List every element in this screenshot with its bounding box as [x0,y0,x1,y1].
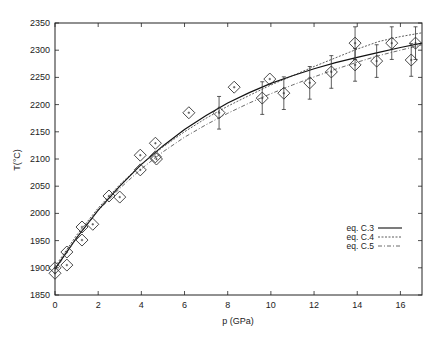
y-tick-label: 1900 [30,263,50,273]
data-point [349,49,361,82]
data-point [61,259,73,271]
y-tick-label: 2250 [30,72,50,82]
y-tick-label: 1850 [30,290,50,300]
data-point [134,149,146,161]
y-axis-ticks: 1850190019502000205021002150220022502300… [30,18,422,300]
chart: 0246810121416 18501900195020002050210021… [0,0,438,338]
x-tick-label: 14 [352,300,362,310]
plot-frame [55,23,422,295]
data-point [228,81,240,93]
legend-label-c5: eq. C.5 [347,241,375,251]
y-tick-label: 2050 [30,181,50,191]
data-point [114,191,126,203]
data-point [278,77,290,110]
data-point [256,82,268,115]
data-point [61,246,73,258]
x-tick-label: 6 [182,300,187,310]
x-axis-label: p (GPa) [222,316,254,326]
x-tick-label: 0 [52,300,57,310]
x-tick-label: 2 [96,300,101,310]
x-tick-label: 12 [309,300,319,310]
legend: eq. C.3 eq. C.4 eq. C.5 [347,223,402,251]
data-point [371,45,383,78]
data-point [149,137,161,149]
x-tick-label: 10 [266,300,276,310]
y-tick-label: 2350 [30,18,50,28]
y-tick-label: 2300 [30,45,50,55]
y-tick-label: 2100 [30,154,50,164]
data-point [183,107,195,119]
data-point [213,96,225,129]
y-tick-label: 1950 [30,236,50,246]
y-axis-label: T(°C) [12,149,22,171]
x-tick-label: 4 [139,300,144,310]
data-point [386,27,398,60]
x-tick-label: 16 [395,300,405,310]
y-tick-label: 2200 [30,100,50,110]
x-tick-label: 8 [225,300,230,310]
y-tick-label: 2000 [30,208,50,218]
x-axis-ticks: 0246810121416 [52,23,405,310]
y-tick-label: 2150 [30,127,50,137]
